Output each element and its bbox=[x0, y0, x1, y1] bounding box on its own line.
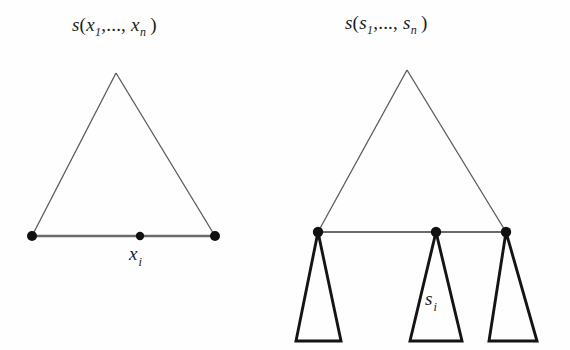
left-formula-argn-subscript: n bbox=[140, 25, 147, 39]
left-formula-close-paren: ) bbox=[150, 14, 157, 35]
right-formula-label: s(s1,..., sn ) bbox=[345, 12, 428, 38]
right-formula-argn-base: s bbox=[403, 12, 411, 33]
right-formula-arg1-base: s bbox=[359, 12, 367, 33]
subtree-triangle-right bbox=[489, 232, 537, 341]
right-node-label-si: si bbox=[425, 288, 437, 315]
right-formula-function: s bbox=[345, 12, 353, 33]
left-formula-argn-base: x bbox=[131, 14, 140, 35]
right-formula-argn-subscript: n bbox=[411, 23, 418, 37]
left-triangle-right-side bbox=[116, 73, 215, 236]
right-base-node-rightmost bbox=[501, 227, 511, 237]
right-base-node-leftmost bbox=[313, 227, 323, 237]
right-triangle-right-side bbox=[407, 70, 506, 232]
left-node-label-subscript: i bbox=[137, 255, 141, 269]
right-base-node-si bbox=[431, 227, 441, 237]
left-node-label-xi: xi bbox=[129, 243, 142, 270]
subtree-triangle-middle bbox=[410, 232, 462, 341]
right-node-label-subscript: i bbox=[432, 300, 436, 314]
left-formula-function: s bbox=[72, 14, 80, 35]
diagram-svg bbox=[0, 0, 570, 350]
left-triangle-left-side bbox=[32, 73, 116, 236]
left-formula-label: s(x1,..., xn ) bbox=[72, 14, 157, 40]
left-base-node-xi bbox=[136, 232, 144, 240]
right-formula-ellipsis: ,..., bbox=[373, 12, 398, 33]
subtree-triangle-left bbox=[296, 232, 341, 341]
figure-canvas: s(x1,..., xn ) s(s1,..., sn ) xi si bbox=[0, 0, 570, 350]
left-base-node-leftmost bbox=[27, 231, 37, 241]
left-term-tree bbox=[27, 73, 220, 241]
left-formula-ellipsis: ,..., bbox=[101, 14, 126, 35]
right-term-tree bbox=[296, 70, 537, 341]
right-triangle-left-side bbox=[318, 70, 407, 232]
right-formula-close-paren: ) bbox=[421, 12, 428, 33]
left-formula-arg1-base: x bbox=[86, 14, 95, 35]
left-base-node-rightmost bbox=[210, 231, 220, 241]
